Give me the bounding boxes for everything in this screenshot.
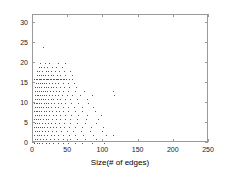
data-point: [69, 79, 70, 80]
data-point: [42, 83, 43, 84]
data-point: [46, 119, 47, 120]
data-point: [68, 83, 69, 84]
data-point: [35, 131, 36, 132]
data-point: [84, 91, 85, 92]
data-point: [48, 75, 49, 76]
data-point: [55, 107, 56, 108]
data-point: [59, 91, 60, 92]
data-point: [48, 131, 49, 132]
data-point: [53, 143, 54, 144]
data-point: [50, 91, 51, 92]
data-point: [64, 79, 65, 80]
data-point: [46, 103, 47, 104]
data-point: [48, 119, 49, 120]
data-point: [52, 119, 53, 120]
data-point: [44, 83, 45, 84]
data-point: [45, 99, 46, 100]
data-point: [55, 95, 56, 96]
y-tick-mark: [32, 62, 35, 63]
data-point: [51, 99, 52, 100]
data-point: [41, 99, 42, 100]
data-point: [42, 131, 43, 132]
y-tick-mark: [32, 122, 35, 123]
plot-area: [32, 14, 208, 142]
data-point: [82, 107, 83, 108]
data-point: [63, 91, 64, 92]
data-point: [35, 139, 36, 140]
x-tick-mark-top: [67, 14, 68, 17]
data-point: [39, 115, 40, 116]
data-point: [46, 115, 47, 116]
data-point: [41, 91, 42, 92]
y-tick-mark: [32, 42, 35, 43]
data-point: [40, 83, 41, 84]
data-point: [42, 123, 43, 124]
data-point: [51, 71, 52, 72]
data-point: [43, 107, 44, 108]
data-point: [65, 63, 66, 64]
data-point: [49, 83, 50, 84]
data-point: [52, 131, 53, 132]
data-point: [43, 119, 44, 120]
data-point: [72, 79, 73, 80]
data-point: [44, 111, 45, 112]
data-point: [58, 63, 59, 64]
data-point: [56, 87, 57, 88]
data-point: [82, 111, 83, 112]
data-point: [43, 47, 44, 48]
y-tick-mark-right: [205, 102, 208, 103]
y-tick-mark: [32, 82, 35, 83]
data-point: [57, 75, 58, 76]
data-point: [104, 143, 105, 144]
data-point: [95, 111, 96, 112]
data-point: [59, 111, 60, 112]
data-point: [39, 75, 40, 76]
data-point: [65, 99, 66, 100]
x-tick-label: 250: [202, 146, 214, 153]
data-point: [40, 119, 41, 120]
y-tick-mark: [32, 142, 35, 143]
data-point: [40, 139, 41, 140]
data-point: [39, 99, 40, 100]
data-point: [41, 75, 42, 76]
data-point: [70, 123, 71, 124]
data-point: [43, 139, 44, 140]
data-point: [60, 127, 61, 128]
data-point: [58, 135, 59, 136]
y-tick-mark-right: [205, 42, 208, 43]
data-point: [58, 139, 59, 140]
data-point: [44, 135, 45, 136]
data-point: [55, 83, 56, 84]
data-point: [39, 87, 40, 88]
data-point: [46, 107, 47, 108]
data-point: [44, 95, 45, 96]
data-point: [39, 103, 40, 104]
data-point: [37, 131, 38, 132]
data-point: [55, 123, 56, 124]
data-point: [56, 127, 57, 128]
data-point: [37, 143, 38, 144]
x-tick-mark: [173, 139, 174, 142]
data-point: [47, 127, 48, 128]
x-tick-mark: [67, 139, 68, 142]
data-point: [88, 103, 89, 104]
data-point: [81, 131, 82, 132]
data-point: [46, 111, 47, 112]
data-point: [58, 83, 59, 84]
data-point: [64, 71, 65, 72]
data-point: [52, 83, 53, 84]
data-point: [37, 71, 38, 72]
data-point: [113, 135, 114, 136]
data-point: [42, 95, 43, 96]
data-point: [53, 115, 54, 116]
data-point: [71, 115, 72, 116]
data-point: [42, 143, 43, 144]
y-tick-label: 10: [10, 99, 28, 106]
x-tick-label: 0: [30, 146, 34, 153]
data-point: [85, 123, 86, 124]
data-point: [87, 99, 88, 100]
data-point: [65, 119, 66, 120]
data-point: [58, 107, 59, 108]
data-point: [48, 99, 49, 100]
data-point: [44, 87, 45, 88]
